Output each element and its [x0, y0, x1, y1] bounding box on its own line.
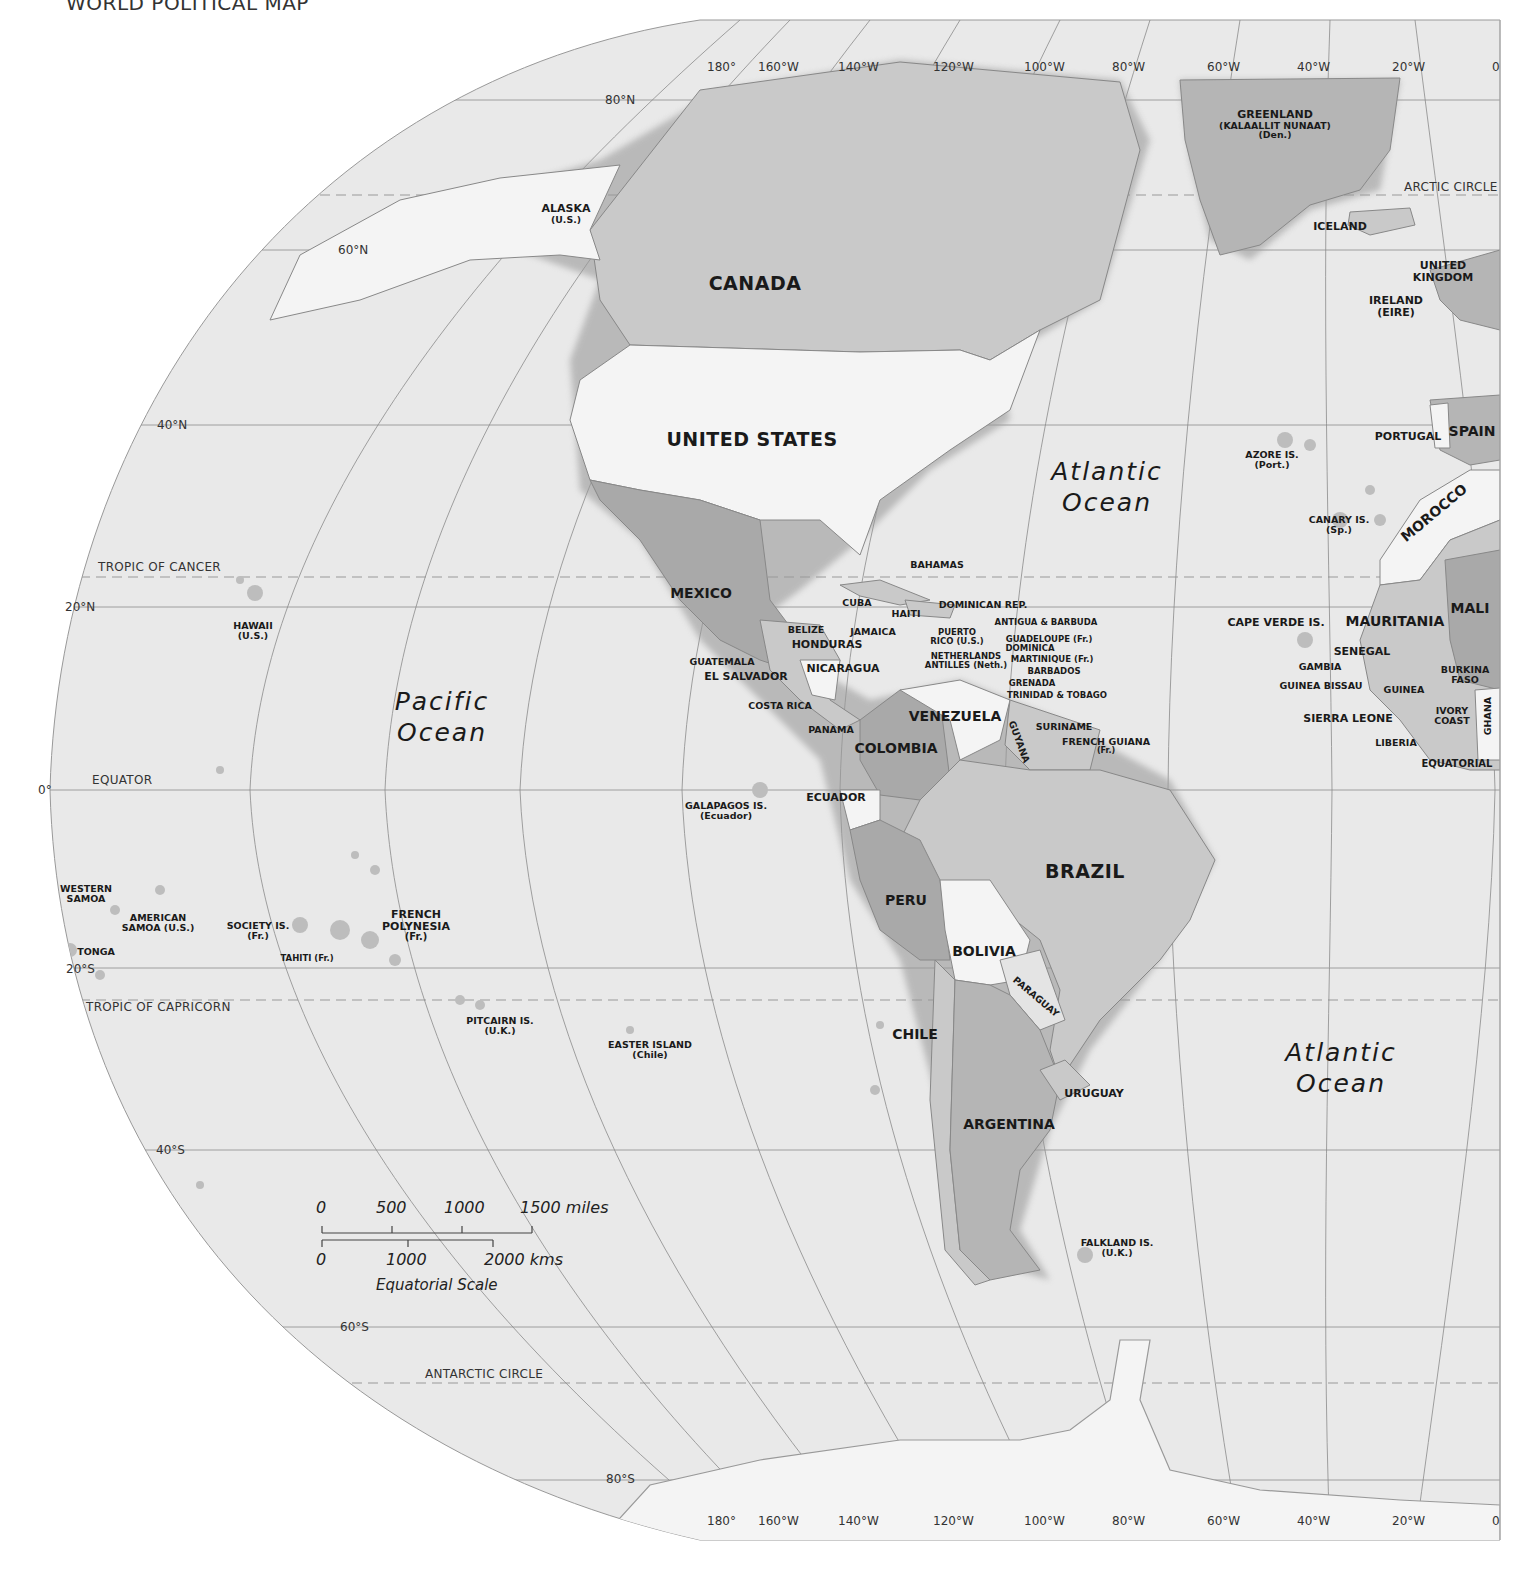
country-ivory-coast[interactable]: IVORYCOAST [1434, 706, 1469, 726]
country-portugal[interactable]: PORTUGAL [1375, 431, 1441, 443]
country-united-states[interactable]: UNITED STATES [666, 430, 837, 450]
country-grenada[interactable]: GRENADA [1009, 679, 1056, 688]
country-ireland[interactable]: IRELAND(EIRE) [1369, 295, 1423, 318]
country-iceland[interactable]: ICELAND [1313, 221, 1367, 233]
label-line2: SAMOA (U.S.) [122, 923, 195, 933]
territory-puerto-rico[interactable]: PUERTORICO (U.S.) [930, 628, 983, 646]
lon-label-bottom-100w: 100°W [1024, 1514, 1065, 1528]
country-liberia[interactable]: LIBERIA [1375, 738, 1417, 748]
label-line2: ANTILLES (Neth.) [925, 661, 1007, 670]
island-easter[interactable]: EASTER ISLAND(Chile) [608, 1040, 692, 1060]
ocean-line1: Atlantic [1285, 1037, 1397, 1068]
country-sierra-leone[interactable]: SIERRA LEONE [1303, 713, 1392, 725]
tropic-of-capricorn-label: TROPIC OF CAPRICORN [86, 1000, 231, 1014]
label-line2: SAMOA [60, 894, 112, 904]
country-belize[interactable]: BELIZE [788, 625, 825, 635]
island-azores[interactable]: AZORE IS.(Port.) [1245, 450, 1298, 470]
country-trinidad-tobago[interactable]: TRINIDAD & TOBAGO [1007, 691, 1107, 700]
country-canada[interactable]: CANADA [709, 274, 802, 294]
country-suriname[interactable]: SURINAME [1036, 722, 1093, 732]
lat-label-60s: 60°S [340, 1320, 369, 1334]
label-line2: RICO (U.S.) [930, 637, 983, 646]
island-society-is[interactable]: SOCIETY IS.(Fr.) [227, 921, 290, 941]
country-bolivia[interactable]: BOLIVIA [952, 944, 1016, 959]
island-american-samoa[interactable]: AMERICANSAMOA (U.S.) [122, 913, 195, 933]
atlantic-ocean-south-label: Atlantic Ocean [1285, 1037, 1397, 1100]
country-panama[interactable]: PANAMA [808, 725, 854, 735]
country-bahamas[interactable]: BAHAMAS [910, 560, 964, 570]
lon-label-top-180: 180° [707, 60, 736, 74]
country-antigua-barbuda[interactable]: ANTIGUA & BARBUDA [995, 618, 1098, 627]
territory-netherlands-antilles[interactable]: NETHERLANDSANTILLES (Neth.) [925, 652, 1007, 670]
territory-martinique[interactable]: MARTINIQUE (Fr.) [1011, 655, 1094, 664]
label-note: (Ecuador) [685, 811, 767, 821]
country-dominican-rep[interactable]: DOMINICAN REP. [939, 600, 1028, 610]
island-canary[interactable]: CANARY IS.(Sp.) [1309, 515, 1370, 535]
country-costa-rica[interactable]: COSTA RICA [748, 701, 811, 711]
country-barbados[interactable]: BARBADOS [1027, 667, 1080, 676]
label-note: (U.K.) [1081, 1248, 1154, 1258]
country-spain[interactable]: SPAIN [1449, 424, 1496, 439]
territory-alaska[interactable]: ALASKA(U.S.) [542, 203, 591, 224]
country-dominica[interactable]: DOMINICA [1006, 644, 1055, 653]
ocean-line2: Ocean [395, 717, 490, 748]
label-line2: COAST [1434, 716, 1469, 726]
lon-label-bottom-40w: 40°W [1297, 1514, 1330, 1528]
country-mauritania[interactable]: MAURITANIA [1346, 614, 1445, 629]
label-note: (Chile) [608, 1050, 692, 1060]
island-tahiti[interactable]: TAHITI (Fr.) [280, 954, 333, 963]
antarctic-circle-label: ANTARCTIC CIRCLE [425, 1367, 543, 1381]
country-guinea-bissau[interactable]: GUINEA BISSAU [1280, 681, 1363, 691]
country-honduras[interactable]: HONDURAS [792, 639, 863, 651]
lat-label-20s: 20°S [66, 962, 95, 976]
country-nicaragua[interactable]: NICARAGUA [806, 663, 879, 675]
country-chile[interactable]: CHILE [892, 1027, 938, 1042]
lon-label-top-80w: 80°W [1112, 60, 1145, 74]
country-gambia[interactable]: GAMBIA [1299, 662, 1342, 672]
atlantic-ocean-north-label: Atlantic Ocean [1051, 456, 1163, 519]
scale-km-0: 0 [316, 1250, 326, 1269]
island-pitcairn[interactable]: PITCAIRN IS.(U.K.) [466, 1016, 533, 1036]
label-line2: KINGDOM [1413, 272, 1473, 284]
country-senegal[interactable]: SENEGAL [1334, 646, 1391, 658]
country-venezuela[interactable]: VENEZUELA [909, 709, 1002, 724]
lon-label-bottom-120w: 120°W [933, 1514, 974, 1528]
country-jamaica[interactable]: JAMAICA [850, 627, 896, 637]
lon-label-bottom-60w: 60°W [1207, 1514, 1240, 1528]
territory-french-polynesia[interactable]: FRENCHPOLYNESIA(Fr.) [382, 909, 450, 942]
country-haiti[interactable]: HAITI [892, 609, 921, 619]
country-peru[interactable]: PERU [885, 893, 927, 908]
label-note: (Fr.) [382, 932, 450, 942]
territory-greenland[interactable]: GREENLAND(KALAALLIT NUNAAT)(Den.) [1219, 109, 1331, 140]
country-brazil[interactable]: BRAZIL [1045, 862, 1125, 882]
country-guatemala[interactable]: GUATEMALA [689, 657, 754, 667]
lat-label-20n: 20°N [65, 600, 95, 614]
country-ghana[interactable]: GHANA [1483, 697, 1493, 735]
island-tonga[interactable]: TONGA [77, 947, 115, 957]
island-falkland[interactable]: FALKLAND IS.(U.K.) [1081, 1238, 1154, 1258]
country-mexico[interactable]: MEXICO [670, 586, 732, 601]
label-note: (Den.) [1219, 131, 1331, 141]
island-western-samoa[interactable]: WESTERNSAMOA [60, 884, 112, 904]
country-mali[interactable]: MALI [1451, 601, 1490, 616]
country-argentina[interactable]: ARGENTINA [963, 1117, 1055, 1132]
island-hawaii[interactable]: HAWAII(U.S.) [233, 621, 272, 641]
country-uk[interactable]: UNITEDKINGDOM [1413, 260, 1473, 283]
country-guinea[interactable]: GUINEA [1384, 685, 1425, 695]
label-note: (Fr.) [1062, 747, 1150, 755]
scale-miles-1500: 1500 miles [520, 1198, 608, 1217]
country-uruguay[interactable]: URUGUAY [1064, 1088, 1123, 1100]
country-cuba[interactable]: CUBA [842, 598, 871, 608]
arctic-circle-label: ARCTIC CIRCLE [1404, 180, 1498, 194]
country-el-salvador[interactable]: EL SALVADOR [704, 671, 788, 683]
lon-label-bottom-0: 0 [1492, 1514, 1500, 1528]
country-burkina-faso[interactable]: BURKINAFASO [1441, 665, 1489, 685]
island-cape-verde[interactable]: CAPE VERDE IS. [1227, 617, 1324, 629]
map-canvas [0, 0, 1540, 1569]
island-galapagos[interactable]: GALAPAGOS IS.(Ecuador) [685, 801, 767, 821]
country-colombia[interactable]: COLOMBIA [854, 741, 937, 756]
equator-label: EQUATOR [92, 773, 152, 787]
country-ecuador[interactable]: ECUADOR [806, 792, 866, 804]
territory-french-guiana[interactable]: FRENCH GUIANA(Fr.) [1062, 737, 1150, 755]
label-note: (EIRE) [1369, 307, 1423, 319]
